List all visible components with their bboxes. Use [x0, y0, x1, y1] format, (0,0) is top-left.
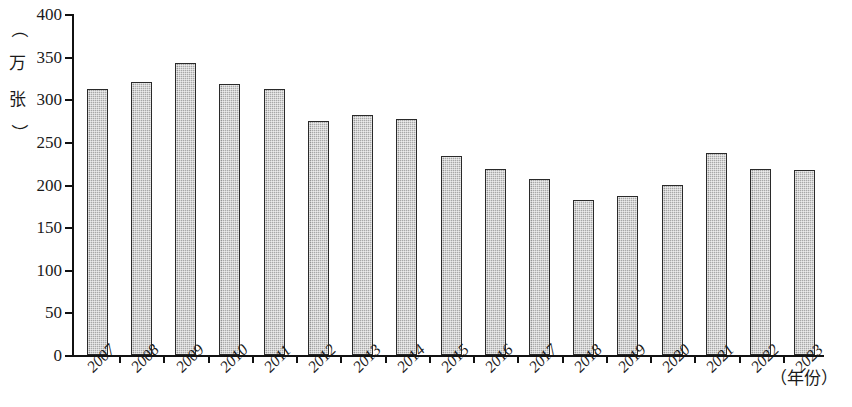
y-axis-tick-label: 300	[22, 91, 62, 108]
x-axis-tick-mark	[208, 355, 210, 363]
bar	[396, 119, 417, 355]
y-axis-tick-label: 250	[22, 133, 62, 150]
y-axis-tick-mark	[65, 227, 73, 229]
y-axis-tick-mark	[65, 185, 73, 187]
bar	[485, 169, 506, 355]
bar	[750, 169, 771, 355]
plot-area: 050100150200250300350400 200720082009201…	[72, 14, 824, 356]
bar	[529, 179, 550, 355]
bar	[131, 82, 152, 355]
y-axis-tick-mark	[65, 14, 73, 16]
x-axis-tick-mark	[739, 355, 741, 363]
y-axis-tick-mark	[65, 355, 73, 357]
x-axis-tick-mark	[606, 355, 608, 363]
x-axis-tick-mark	[340, 355, 342, 363]
x-axis-tick-mark	[783, 355, 785, 363]
x-axis-tick-mark	[163, 355, 165, 363]
x-axis-tick-mark	[694, 355, 696, 363]
bar	[662, 185, 683, 355]
x-axis-tick-mark	[650, 355, 652, 363]
y-axis-tick-label: 50	[22, 304, 62, 321]
y-axis-tick-mark	[65, 99, 73, 101]
x-axis-tick-mark	[252, 355, 254, 363]
y-axis-tick-label: 100	[22, 261, 62, 278]
y-axis-tick-label: 350	[22, 48, 62, 65]
y-axis-tick-label: 400	[22, 6, 62, 23]
y-axis-tick-mark	[65, 57, 73, 59]
bar	[175, 63, 196, 355]
x-axis-tick-mark	[119, 355, 121, 363]
bar	[87, 89, 108, 355]
bar	[573, 200, 594, 355]
bar	[264, 89, 285, 355]
x-axis-tick-mark	[517, 355, 519, 363]
bar	[441, 156, 462, 355]
y-axis-tick-mark	[65, 312, 73, 314]
x-axis-tick-mark	[473, 355, 475, 363]
y-axis-tick-mark	[65, 142, 73, 144]
bar	[706, 153, 727, 355]
y-axis-tick-label: 0	[22, 347, 62, 364]
bar	[352, 115, 373, 355]
bar	[617, 196, 638, 355]
x-axis-tick-mark	[296, 355, 298, 363]
x-axis-tick-mark	[385, 355, 387, 363]
x-axis-tick-mark	[429, 355, 431, 363]
bar	[308, 121, 329, 355]
bar	[794, 170, 815, 355]
bar-chart: （ 万 张 ） 050100150200250300350400 2007200…	[0, 0, 852, 407]
y-axis-tick-label: 150	[22, 219, 62, 236]
x-axis-tick-mark	[562, 355, 564, 363]
y-axis-tick-mark	[65, 270, 73, 272]
y-axis-tick-label: 200	[22, 176, 62, 193]
bar	[219, 84, 240, 355]
x-axis-unit-label: （年份）	[770, 370, 838, 387]
